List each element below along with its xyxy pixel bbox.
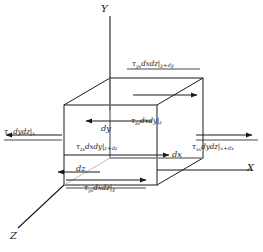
axis-label-x: X	[247, 163, 254, 173]
dimension-label-dx: dx	[172, 150, 182, 158]
force-label-tau-xx-right: τxxdydz|x + dx	[192, 143, 234, 152]
force-label-tau-zx-back: τzxdxdy|z	[131, 117, 162, 126]
axis-label-z: Z	[10, 231, 17, 241]
dimension-label-dz: dz	[76, 164, 85, 172]
axis-label-y: Y	[101, 4, 108, 14]
force-label-tau-xx-left: τxxdydz|x	[4, 128, 35, 137]
force-label-tau-yx-top: τyxdxdz|y + dy	[132, 60, 174, 69]
figure-canvas: Y X Z τyxdxdz|y + dy τzxdxdy|z τxxdydz|x…	[0, 0, 263, 252]
dimension-label-dy: dy	[101, 124, 111, 132]
force-label-tau-yx-bottom: τyxdxdz|y	[84, 184, 115, 193]
force-label-tau-zx-front: τzxdxdy|z + dz	[76, 143, 117, 152]
axis-z	[18, 185, 64, 228]
